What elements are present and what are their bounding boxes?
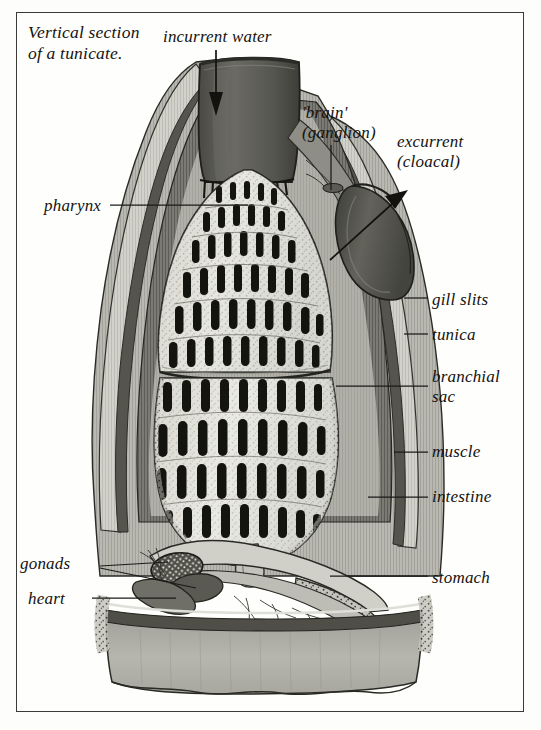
- label-intestine: intestine: [432, 487, 491, 507]
- label-pharynx: pharynx: [44, 196, 101, 216]
- label-gill-slits: gill slits: [432, 290, 488, 310]
- figure-page: Vertical section of a tunicate. incurren…: [0, 0, 541, 730]
- tunicate-illustration: [0, 0, 541, 730]
- label-stomach: stomach: [432, 568, 490, 588]
- label-brain-ganglion: 'brain' (ganglion): [302, 103, 376, 143]
- label-gonads: gonads: [20, 554, 70, 574]
- figure-title: Vertical section of a tunicate.: [28, 22, 140, 63]
- label-muscle: muscle: [432, 442, 480, 462]
- label-excurrent-cloacal: excurrent (cloacal): [397, 132, 463, 172]
- label-heart: heart: [28, 589, 65, 609]
- ganglion-body: [323, 184, 343, 193]
- label-incurrent-water: incurrent water: [163, 27, 272, 47]
- label-tunica: tunica: [432, 325, 476, 345]
- label-branchial-sac: branchial sac: [432, 367, 500, 407]
